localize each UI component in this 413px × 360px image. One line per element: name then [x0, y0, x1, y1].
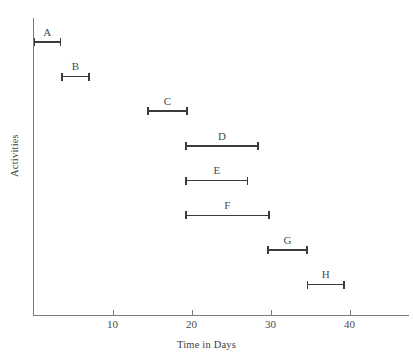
task-bar-start-cap	[185, 177, 187, 185]
task-bar-label: G	[267, 235, 307, 246]
task-bar-label: F	[185, 200, 270, 211]
gantt-chart: 10203040 ABCDEFGH Time in Days Activitie…	[0, 0, 413, 360]
task-bar-start-cap	[147, 107, 149, 115]
task-bar-start-cap	[61, 73, 63, 81]
task-bar-end-cap	[88, 73, 90, 81]
task-bar-e: E	[185, 180, 248, 182]
task-bar-b: B	[61, 76, 89, 78]
task-bar-end-cap	[257, 142, 259, 150]
x-axis-tick	[350, 310, 351, 316]
task-bar-a: A	[34, 41, 62, 43]
task-bar-start-cap	[267, 246, 269, 254]
y-axis-line	[33, 18, 34, 316]
task-bar-label: H	[307, 269, 345, 280]
x-axis-tick-label: 30	[251, 318, 291, 330]
task-bar-start-cap	[307, 281, 309, 289]
x-axis-tick-label: 20	[172, 318, 212, 330]
task-bar-label: E	[185, 165, 248, 176]
task-bar-start-cap	[185, 142, 187, 150]
x-axis-line	[33, 315, 409, 316]
y-axis-title: Activities	[9, 116, 20, 196]
x-axis-title: Time in Days	[0, 339, 413, 350]
x-axis-tick	[192, 310, 193, 316]
task-bar-label: C	[147, 96, 187, 107]
task-bar-f: F	[185, 215, 270, 217]
task-bar-c: C	[147, 110, 187, 112]
task-bar-end-cap	[343, 281, 345, 289]
task-bar-end-cap	[268, 211, 270, 219]
task-bar-end-cap	[306, 246, 308, 254]
task-bar-g: G	[267, 249, 307, 251]
task-bar-start-cap	[185, 211, 187, 219]
task-bar-h: H	[307, 284, 345, 286]
task-bar-label: A	[34, 27, 62, 38]
task-bar-end-cap	[186, 107, 188, 115]
task-bar-label: D	[185, 131, 258, 142]
x-axis-tick-label: 10	[93, 318, 133, 330]
task-bar-start-cap	[34, 38, 36, 46]
x-axis-tick	[113, 310, 114, 316]
x-axis-tick-label: 40	[330, 318, 370, 330]
task-bar-end-cap	[60, 38, 62, 46]
x-axis-tick	[271, 310, 272, 316]
task-bar-d: D	[185, 145, 258, 147]
task-bar-end-cap	[247, 177, 249, 185]
task-bar-label: B	[61, 61, 89, 72]
